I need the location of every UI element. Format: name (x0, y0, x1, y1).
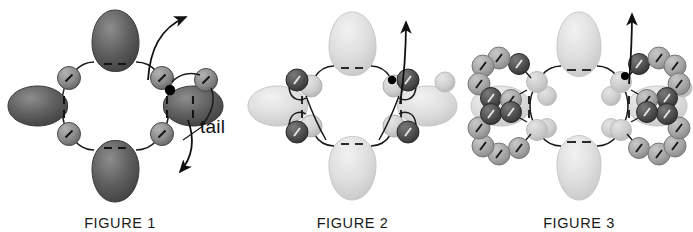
figure-1-caption: FIGURE 1 (0, 214, 240, 232)
figure-1-illustration (0, 0, 240, 214)
ring-sphere-bottom-right (151, 123, 174, 146)
node-dot (165, 85, 175, 95)
figure-2-illustration (240, 0, 465, 214)
orbital-lobe-bottom (329, 137, 376, 201)
arc-sphere (509, 138, 530, 159)
arc-sphere (637, 102, 658, 123)
figure-panel-3: FIGURE 3 (465, 0, 693, 232)
orbital-lobe-bottom (92, 141, 139, 203)
arc-sphere (501, 102, 522, 123)
outer-sphere-right (195, 69, 218, 92)
arc-sphere (657, 104, 678, 125)
orbital-lobe-bottom (557, 136, 601, 201)
orbital-lobe-left (248, 86, 308, 126)
orbital-lobe-top (557, 12, 601, 77)
dark-sphere-bottom-right (397, 121, 419, 143)
node-dot (388, 76, 396, 84)
arc-sphere (509, 54, 530, 75)
ring-sphere-bottom-left (527, 120, 548, 141)
figure-board: tail FIGURE 1 (0, 0, 693, 232)
ring-bonds (314, 66, 391, 146)
figure-panel-1: tail FIGURE 1 (0, 0, 240, 232)
orbital-lobe-top (92, 10, 139, 72)
dark-sphere-top-left (286, 69, 308, 91)
orbital-lobe-left (8, 86, 68, 126)
figure-panel-2: FIGURE 2 (240, 0, 465, 232)
dark-sphere-top-right (397, 69, 419, 91)
ring-sphere-top-left (527, 72, 548, 93)
node-dot (621, 72, 629, 80)
figure-3-caption: FIGURE 3 (465, 214, 693, 232)
tail-annotation-label: tail (200, 117, 225, 136)
figure-2-caption: FIGURE 2 (240, 214, 465, 232)
arc-sphere (629, 138, 650, 159)
orbital-lobe-top (329, 12, 376, 76)
ring-sphere-top-left (58, 67, 81, 90)
ring-sphere-bottom-right (611, 120, 632, 141)
outer-sphere-right-upper (435, 72, 455, 92)
figure-3-illustration (465, 0, 693, 214)
dark-sphere-bottom-left (286, 121, 308, 143)
electron-flow-arrow-down (180, 120, 192, 172)
ring-sphere-bottom-left (58, 123, 81, 146)
arc-sphere (481, 104, 502, 125)
